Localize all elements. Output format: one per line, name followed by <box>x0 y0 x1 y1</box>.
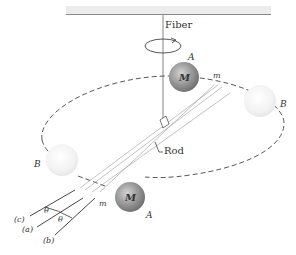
small-mass-bottom-label: m <box>99 199 107 208</box>
cavendish-diagram: Fiber Rod M M A A B B m m θ θ (c) (a) (b… <box>0 0 296 255</box>
position-B-right: B <box>279 99 287 109</box>
small-mass-top-label: m <box>213 71 221 80</box>
mass-M-bottom-label: M <box>124 192 137 203</box>
position-A-top: A <box>187 52 195 62</box>
mass-M-top-label: M <box>178 72 191 83</box>
mass-B-right <box>244 85 276 117</box>
fiber-label: Fiber <box>165 19 192 30</box>
reference-lines <box>30 190 95 235</box>
position-A-bottom: A <box>145 210 153 220</box>
line-c-label: (c) <box>14 215 25 224</box>
ceiling <box>66 6 271 15</box>
mass-B-left <box>46 144 78 176</box>
rod <box>80 85 230 192</box>
position-B-left: B <box>33 159 41 169</box>
theta-2-label: θ <box>58 215 63 224</box>
line-a-label: (a) <box>22 225 33 234</box>
mirror <box>160 116 169 128</box>
line-b-label: (b) <box>43 236 54 245</box>
theta-1-label: θ <box>44 206 49 215</box>
rod-label: Rod <box>164 145 185 156</box>
